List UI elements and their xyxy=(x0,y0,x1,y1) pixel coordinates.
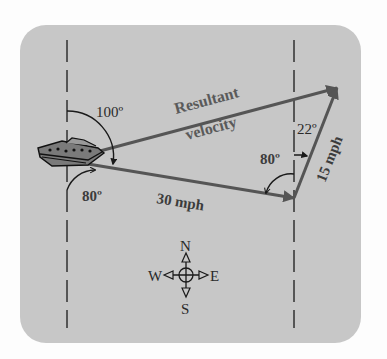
angle-label-22: 22º xyxy=(297,121,317,137)
compass-south: S xyxy=(181,301,189,317)
compass-west: W xyxy=(148,268,163,284)
diagram-panel xyxy=(20,25,361,343)
angle-label-100: 100º xyxy=(96,104,124,120)
vector-diagram: 100º 80º 80º 22º Resultant velocity 30 m… xyxy=(0,0,387,359)
compass-north: N xyxy=(180,238,191,254)
angle-label-80-left: 80º xyxy=(82,188,102,204)
angle-label-80-right: 80º xyxy=(260,151,280,167)
compass-east: E xyxy=(210,268,219,284)
